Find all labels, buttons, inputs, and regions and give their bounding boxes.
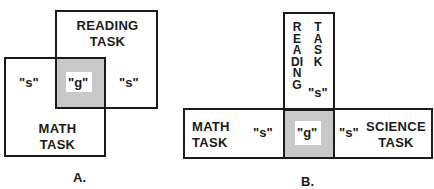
math-label-line2: TASK [10,138,105,152]
specific-factor-left-a: "s" [19,76,39,90]
math-label-line1-b: MATH [192,120,236,134]
science-specific-factor-b: "s" [339,126,359,140]
reading-specific-factor-b: "s" [308,86,328,100]
science-label-line2: TASK [362,136,430,150]
science-label-line1: SCIENCE [362,120,430,134]
general-factor-label-a: "g" [68,76,88,90]
general-factor-label-b: "g" [297,126,317,140]
math-label-line2-b: TASK [192,136,236,150]
caption-a: A. [73,170,86,185]
task-label-vertical-b: TASK [312,22,324,68]
math-task-label-b: MATH TASK [192,120,236,150]
reading-label-line1: READING [60,19,155,33]
science-task-label-b: SCIENCE TASK [362,120,430,150]
reading-label-vertical-b: READING [291,22,303,91]
caption-b: B. [301,174,314,189]
specific-factor-right-a: "s" [119,76,139,90]
math-label-line1: MATH [10,122,105,136]
math-task-label-a: MATH TASK [10,122,105,152]
reading-label-line2: TASK [60,35,155,49]
math-specific-factor-b: "s" [253,126,273,140]
reading-task-label-a: READING TASK [60,19,155,49]
